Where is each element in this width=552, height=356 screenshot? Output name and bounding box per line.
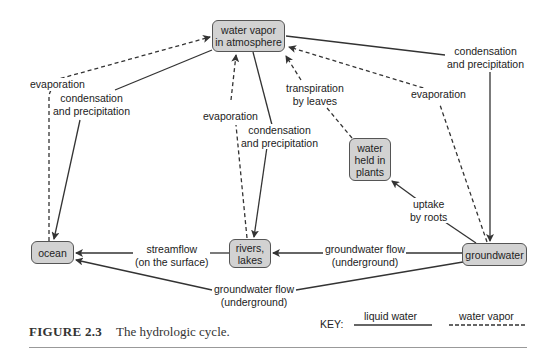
node-groundwater: groundwater [462,243,527,266]
arrow-transpiration [322,102,352,138]
node-water-vapor: water vapor in atmosphere [212,20,285,52]
arrow-condensation-ocean [115,50,212,90]
label-rivers-evaporation: evaporation [202,110,259,123]
node-rivers-lakes: rivers, lakes [229,239,271,268]
key-liquid-label: liquid water [364,310,417,322]
label-rivers-condensation: condensation and precipitation [240,124,319,149]
figure-caption: FIGURE 2.3The hydrologic cycle. [29,324,230,340]
caption-rule [29,347,527,348]
key-vapor-label: water vapor [459,310,514,322]
key-title: KEY: [320,318,343,330]
label-groundwater-evaporation: evaporation [410,88,467,101]
arrow-uptake-roots [445,222,476,243]
label-groundwater-condensation: condensation and precipitation [446,45,525,70]
node-plants: water held in plants [349,138,391,181]
label-uptake: uptake by roots [409,198,448,223]
label-streamflow: streamflow (on the surface) [134,243,210,268]
label-ocean-condensation: condensation and precipitation [52,92,131,117]
arrow-ocean-evaporation [49,37,210,241]
arrow-condensation-rivers-2 [254,147,267,237]
arrow-condensation-groundwater [286,36,445,55]
label-transpiration: transpiration by leaves [285,82,345,107]
node-ocean: ocean [31,241,74,264]
label-gw-flow-ocean: groundwater flow (underground) [213,283,295,308]
label-ocean-evaporation: evaporation [29,78,86,91]
arrow-condensation-ocean-2 [54,120,80,239]
figure-caption-text: The hydrologic cycle. [116,324,230,339]
arrow-transpiration-2 [286,56,301,80]
label-gw-flow-rivers: groundwater flow (underground) [324,243,406,268]
figure-number: FIGURE 2.3 [29,324,102,339]
arrow-rivers-evaporation-2 [231,55,236,100]
